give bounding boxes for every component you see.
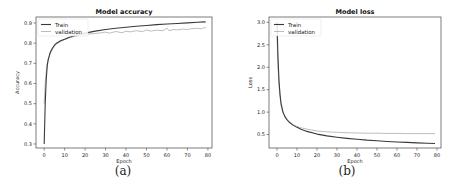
x-tick-label: 10 bbox=[61, 152, 67, 158]
y-tick-label: 1.0 bbox=[257, 109, 265, 115]
y-tick-label: 3.0 bbox=[257, 19, 265, 25]
y-tick-label: 0.8 bbox=[24, 40, 32, 46]
plot-area bbox=[44, 22, 206, 144]
x-tick-label: 80 bbox=[205, 152, 211, 158]
x-tick-label: 30 bbox=[334, 152, 340, 158]
y-axis-label: Loss bbox=[247, 77, 253, 88]
chart-title: Model loss bbox=[336, 8, 375, 16]
y-tick-label: 2.5 bbox=[257, 42, 265, 48]
plot-area bbox=[277, 22, 435, 143]
y-tick-label: 0.5 bbox=[24, 100, 32, 106]
series-line-train bbox=[277, 22, 435, 143]
series-line-validation bbox=[277, 36, 435, 134]
x-tick-label: 50 bbox=[374, 152, 380, 158]
legend-label-train: Train bbox=[54, 22, 69, 28]
panel-caption-b: (b) bbox=[232, 164, 460, 178]
x-tick-label: 40 bbox=[123, 152, 129, 158]
x-tick-label: 10 bbox=[294, 152, 300, 158]
series-line-validation bbox=[44, 28, 206, 104]
chart-title: Model accuracy bbox=[96, 8, 154, 16]
x-tick-label: 20 bbox=[314, 152, 320, 158]
y-tick-label: 2.0 bbox=[257, 64, 265, 70]
y-tick-label: 0.5 bbox=[257, 131, 265, 137]
x-tick-label: 60 bbox=[394, 152, 400, 158]
y-tick-label: 0.6 bbox=[24, 80, 32, 86]
panel-caption-a: (a) bbox=[8, 164, 238, 178]
legend: Trainvalidation bbox=[38, 19, 88, 36]
y-tick-label: 1.5 bbox=[257, 86, 265, 92]
legend-label-validation: validation bbox=[288, 29, 316, 35]
x-tick-label: 40 bbox=[354, 152, 360, 158]
accuracy-panel: Model accuracy010203040506070800.30.40.5… bbox=[0, 0, 230, 192]
axes-frame bbox=[269, 17, 441, 148]
x-tick-label: 30 bbox=[102, 152, 108, 158]
y-axis-label: Accuracy bbox=[14, 71, 21, 94]
x-tick-label: 60 bbox=[164, 152, 170, 158]
x-tick-label: 0 bbox=[275, 152, 278, 158]
x-tick-label: 70 bbox=[414, 152, 420, 158]
legend: Trainvalidation bbox=[271, 19, 321, 36]
axes-frame bbox=[36, 17, 212, 148]
loss-panel: Model loss010203040506070800.51.01.52.02… bbox=[230, 0, 460, 192]
y-tick-label: 0.9 bbox=[24, 20, 32, 26]
series-line-train bbox=[44, 22, 206, 144]
legend-label-train: Train bbox=[287, 22, 302, 28]
x-tick-label: 70 bbox=[184, 152, 190, 158]
x-tick-label: 20 bbox=[82, 152, 88, 158]
x-tick-label: 80 bbox=[434, 152, 440, 158]
legend-label-validation: validation bbox=[55, 29, 83, 35]
y-tick-label: 0.7 bbox=[24, 60, 32, 66]
y-tick-label: 0.4 bbox=[24, 121, 32, 127]
y-tick-label: 0.3 bbox=[24, 141, 32, 147]
x-tick-label: 50 bbox=[143, 152, 149, 158]
x-tick-label: 0 bbox=[43, 152, 46, 158]
